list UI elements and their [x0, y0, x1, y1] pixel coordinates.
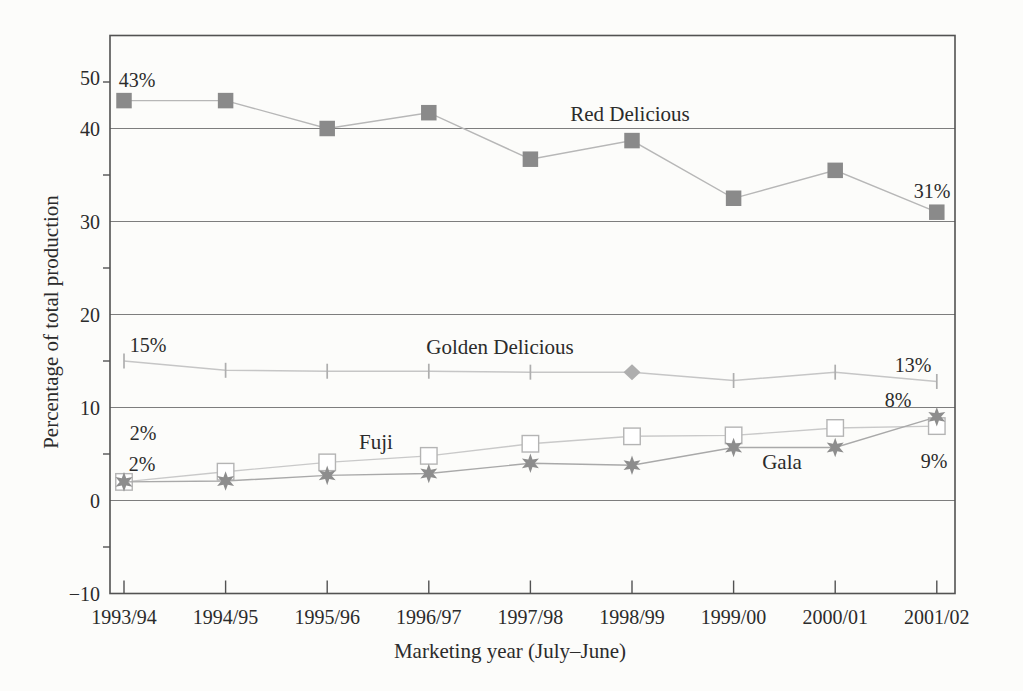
line-chart-canvas: 50403020100−101993/941994/951995/961996/… [0, 0, 1023, 691]
marker-red-delicious-6 [726, 191, 742, 207]
marker-red-delicious-0 [116, 93, 132, 109]
y-tick-label-40: 40 [80, 118, 100, 140]
series-label-gala: Gala [762, 450, 802, 474]
marker-fuji-5 [624, 428, 641, 445]
series-label-golden-delicious: Golden Delicious [426, 335, 574, 359]
x-tick-label-1995-96: 1995/96 [294, 606, 360, 628]
y-tick-label-0: 0 [90, 490, 100, 512]
marker-red-delicious-3 [421, 105, 437, 121]
y-tick-label--10: −10 [69, 583, 100, 605]
marker-red-delicious-2 [319, 121, 335, 137]
y-tick-label-30: 30 [80, 211, 100, 233]
y-tick-label-50: 50 [80, 67, 100, 89]
x-tick-label-1998-99: 1998/99 [599, 606, 665, 628]
series-label-red-delicious: Red Delicious [570, 102, 690, 126]
y-tick-label-10: 10 [80, 397, 100, 419]
point-label-0-43: 43% [119, 69, 156, 91]
x-tick-label-1999-00: 1999/00 [701, 606, 767, 628]
x-tick-label-1993-94: 1993/94 [91, 606, 157, 628]
point-label-4-8: 8% [885, 389, 912, 411]
series-label-fuji: Fuji [359, 430, 393, 454]
marker-fuji-4 [522, 436, 539, 453]
x-tick-label-1996-97: 1996/97 [396, 606, 462, 628]
x-tick-label-2001-02: 2001/02 [904, 606, 970, 628]
point-label-7-2: 2% [129, 453, 156, 475]
marker-fuji-3 [421, 448, 438, 465]
marker-golden-delicious-5-diamond [624, 364, 641, 380]
marker-fuji-7 [827, 420, 844, 437]
point-label-6-2: 2% [130, 422, 157, 444]
x-tick-label-1994-95: 1994/95 [193, 606, 259, 628]
x-axis-title: Marketing year (July–June) [394, 639, 626, 663]
point-label-1-31: 31% [914, 180, 951, 202]
marker-red-delicious-5 [624, 133, 640, 149]
x-tick-label-1997-98: 1997/98 [498, 606, 564, 628]
y-tick-label-20: 20 [80, 304, 100, 326]
figure-page: 50403020100−101993/941994/951995/961996/… [0, 0, 1023, 691]
x-tick-label-2000-01: 2000/01 [802, 606, 868, 628]
marker-red-delicious-8 [929, 204, 945, 220]
point-label-5-9: 9% [921, 450, 948, 472]
marker-red-delicious-7 [827, 163, 843, 179]
marker-red-delicious-4 [523, 151, 539, 167]
point-label-2-15: 15% [130, 334, 167, 356]
y-axis-title: Percentage of total production [39, 195, 63, 449]
marker-red-delicious-1 [218, 93, 234, 109]
point-label-3-13: 13% [895, 354, 932, 376]
